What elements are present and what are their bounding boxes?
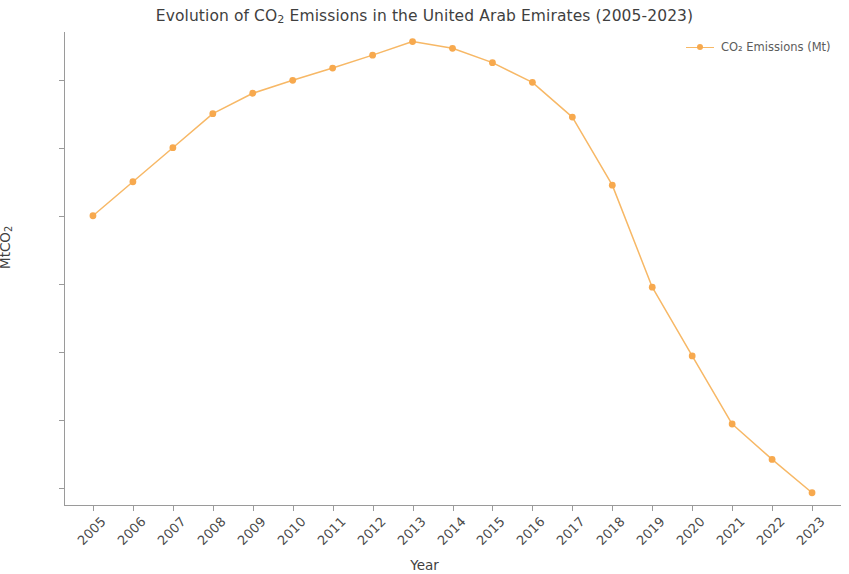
data-point-marker [769, 456, 776, 463]
legend-item-label: CO₂ Emissions (Mt) [721, 40, 831, 54]
data-point-marker [529, 79, 536, 86]
series-line [93, 42, 812, 493]
data-point-marker [489, 59, 496, 66]
data-point-marker [569, 114, 576, 121]
series-plot [0, 0, 849, 574]
legend-marker-icon [686, 42, 714, 52]
data-point-marker [729, 421, 736, 428]
data-point-marker [289, 77, 296, 84]
data-point-marker [689, 353, 696, 360]
data-point-marker [609, 182, 616, 189]
data-point-marker [209, 110, 216, 117]
chart-figure: Evolution of CO2 Emissions in the United… [0, 0, 849, 574]
data-point-marker [249, 90, 256, 97]
chart-legend: CO₂ Emissions (Mt) [686, 40, 831, 54]
data-point-marker [329, 65, 336, 72]
data-point-marker [169, 144, 176, 151]
data-point-marker [809, 489, 816, 496]
data-point-marker [130, 178, 137, 185]
data-point-marker [449, 45, 456, 52]
data-point-marker [409, 38, 416, 45]
data-point-marker [649, 284, 656, 291]
data-point-marker [90, 212, 97, 219]
data-point-marker [369, 52, 376, 59]
